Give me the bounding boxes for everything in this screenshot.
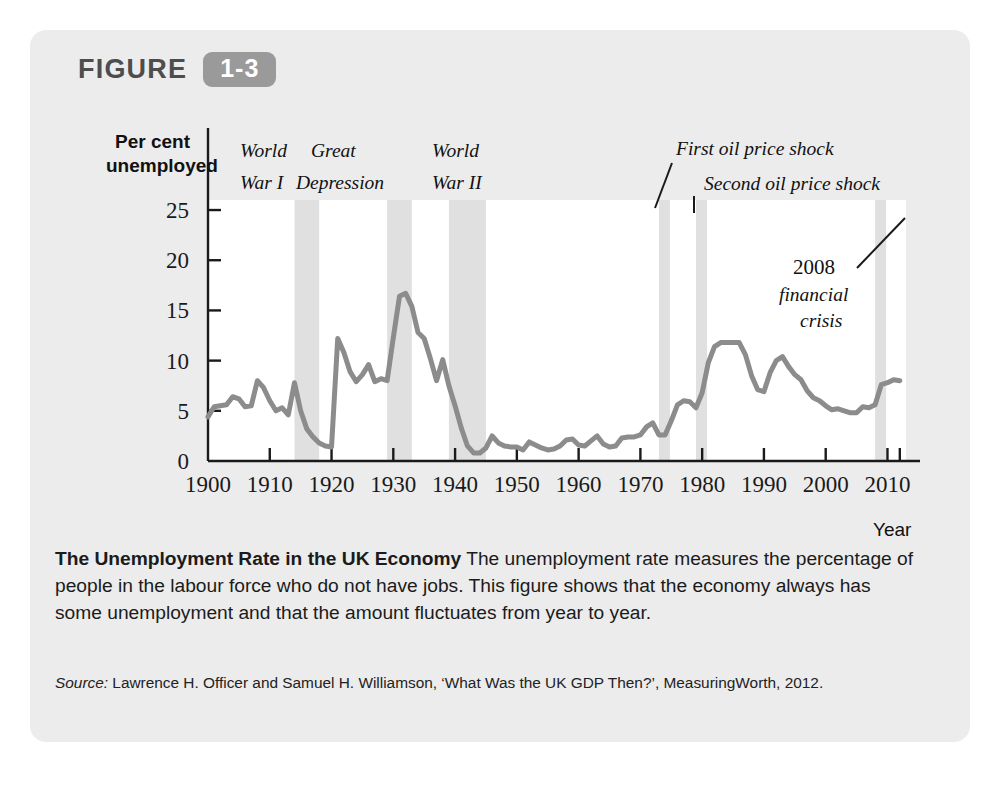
- figure-number-badge: 1-3: [203, 52, 276, 87]
- figure-caption: The Unemployment Rate in the UK Economy …: [55, 545, 921, 626]
- figure-source: Source: Lawrence H. Officer and Samuel H…: [55, 672, 935, 694]
- caption-title: The Unemployment Rate in the UK Economy: [55, 548, 461, 569]
- figure-label: FIGURE: [78, 54, 187, 85]
- source-label: Source:: [55, 674, 108, 691]
- source-text: Lawrence H. Officer and Samuel H. Willia…: [108, 674, 823, 691]
- figure-panel: FIGURE 1-3: [30, 30, 970, 742]
- figure-header: FIGURE 1-3: [78, 52, 276, 87]
